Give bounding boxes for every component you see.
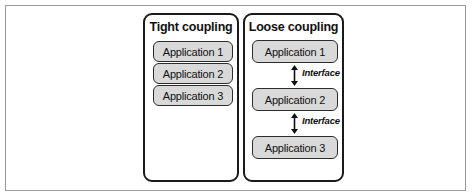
app-box-tight-application-1: Application 1 xyxy=(153,41,233,62)
double-headed-arrow-icon xyxy=(290,113,299,134)
app-box-tight-application-3: Application 3 xyxy=(153,85,233,106)
connector-label-interface-1: Interface xyxy=(302,67,340,78)
connector-label-interface-2: Interface xyxy=(302,115,340,126)
panel-tight-coupling: Tight coupling Application 1 Application… xyxy=(143,13,239,182)
panel-loose-coupling: Loose coupling Application 1 Interface A… xyxy=(243,13,344,182)
connector-interface-1: Interface xyxy=(252,63,338,88)
app-box-loose-application-2: Application 2 xyxy=(252,88,338,111)
app-box-tight-application-2: Application 2 xyxy=(153,63,233,84)
app-box-loose-application-3: Application 3 xyxy=(252,136,338,159)
panel-title-tight-coupling: Tight coupling xyxy=(145,20,237,34)
panel-title-loose-coupling: Loose coupling xyxy=(245,20,342,34)
diagram-canvas: Tight coupling Application 1 Application… xyxy=(0,0,473,196)
app-box-loose-application-1: Application 1 xyxy=(252,40,338,63)
double-headed-arrow-icon xyxy=(290,65,299,86)
connector-interface-2: Interface xyxy=(252,111,338,136)
